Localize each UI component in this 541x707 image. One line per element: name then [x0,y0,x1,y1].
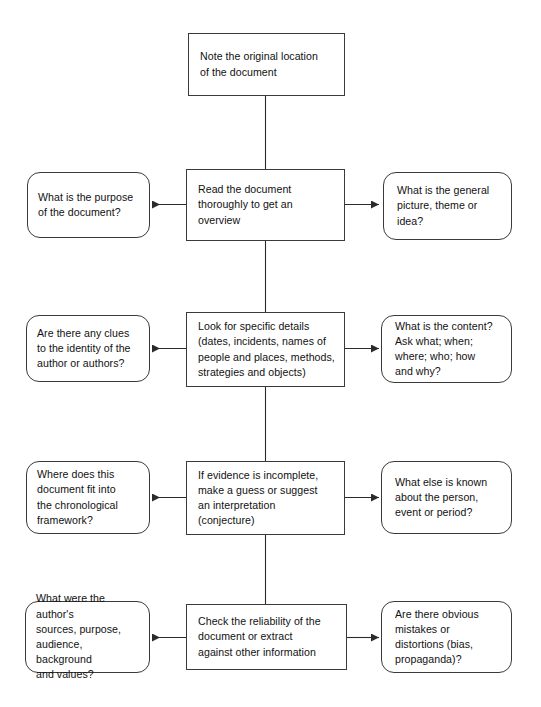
question-box-right-step-5-label: Are there obvious mistakes or distortion… [382,607,511,668]
process-box-step-1-label: Note the original location of the docume… [189,49,344,79]
question-box-right-step-5[interactable]: Are there obvious mistakes or distortion… [381,601,512,673]
question-box-left-step-4-label: Where does this document fit into the ch… [27,467,149,528]
process-box-step-4[interactable]: If evidence is incomplete, make a guess … [186,461,345,535]
question-box-left-step-2[interactable]: What is the purpose of the document? [27,172,150,238]
question-box-left-step-3-label: Are there any clues to the identity of t… [27,326,149,372]
process-box-step-1[interactable]: Note the original location of the docume… [188,33,345,96]
question-box-right-step-2[interactable]: What is the general picture, theme or id… [383,172,512,240]
question-box-left-step-4[interactable]: Where does this document fit into the ch… [26,461,150,534]
question-box-left-step-5-label: What were the author's sources, purpose,… [26,591,149,682]
flowchart-canvas: Note the original location of the docume… [0,0,541,707]
question-box-right-step-4-label: What else is known about the person, eve… [382,475,511,521]
question-box-left-step-3[interactable]: Are there any clues to the identity of t… [26,315,150,382]
question-box-right-step-3-label: What is the content? Ask what; when; whe… [382,319,511,380]
question-box-right-step-2-label: What is the general picture, theme or id… [384,183,511,229]
question-box-right-step-3[interactable]: What is the content? Ask what; when; whe… [381,315,512,383]
process-box-step-2-label: Read the document thoroughly to get an o… [187,182,344,228]
process-box-step-3[interactable]: Look for specific details (dates, incide… [186,312,345,387]
question-box-right-step-4[interactable]: What else is known about the person, eve… [381,461,512,534]
question-box-left-step-2-label: What is the purpose of the document? [28,190,149,220]
process-box-step-5[interactable]: Check the reliability of the document or… [186,604,347,670]
question-box-left-step-5[interactable]: What were the author's sources, purpose,… [25,601,150,673]
process-box-step-3-label: Look for specific details (dates, incide… [187,319,344,380]
process-box-step-4-label: If evidence is incomplete, make a guess … [187,468,344,529]
process-box-step-5-label: Check the reliability of the document or… [187,614,346,660]
process-box-step-2[interactable]: Read the document thoroughly to get an o… [186,169,345,241]
